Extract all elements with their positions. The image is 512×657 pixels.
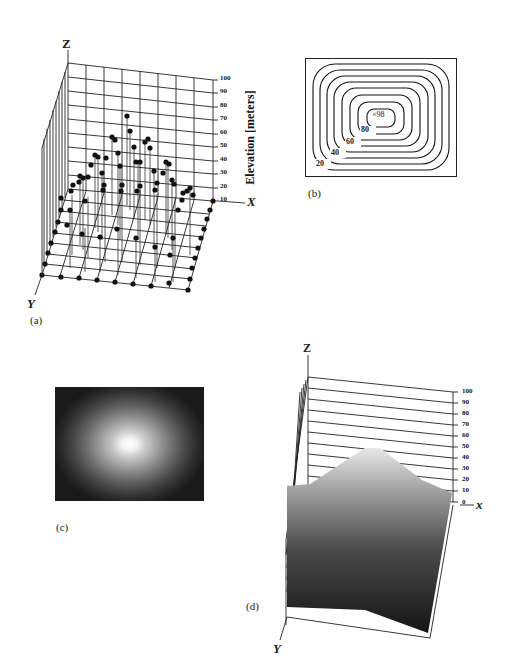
panel-d-z-axis-label: Z — [303, 341, 311, 356]
panel-a-stem-plot: Z X Y 100 90 80 70 60 50 40 30 20 10 Ele… — [0, 0, 260, 330]
tick-label: 80 — [462, 409, 469, 417]
tick-label: 70 — [462, 420, 469, 428]
tick-label: 60 — [462, 431, 469, 439]
tick-label: 30 — [462, 464, 469, 472]
panel-a-elevation-label: Elevation [meters] — [243, 78, 258, 198]
surface-shape — [287, 448, 452, 633]
tick-label: 90 — [220, 87, 227, 95]
tick-label: 40 — [462, 453, 469, 461]
panel-a-y-axis-label: Y — [27, 296, 35, 312]
panel-a-label: (a) — [30, 314, 42, 326]
tick-label: 70 — [220, 114, 227, 122]
tick-label: 30 — [220, 168, 227, 176]
panel-d-surface-plot: Z x Y 100 90 80 70 60 50 40 30 20 10 0 — [270, 340, 512, 650]
stem-plot-graphic — [0, 0, 260, 330]
tick-label: 100 — [462, 387, 473, 395]
stems — [70, 116, 190, 282]
panel-c-grayscale-image — [55, 387, 204, 501]
tick-label: 100 — [220, 74, 231, 82]
panel-b-contour-map: ×98 80 60 40 20 — [305, 58, 457, 178]
panel-c-label: (c) — [56, 521, 68, 533]
panel-a-z-axis-label: Z — [62, 36, 71, 52]
tick-label: 0 — [462, 498, 466, 506]
panel-d-y-axis-label: Y — [273, 641, 281, 657]
tick-label: 50 — [462, 442, 469, 450]
contour-label-60: 60 — [346, 137, 354, 146]
contour-label-80: 80 — [361, 125, 369, 134]
contour-label-20: 20 — [316, 159, 324, 168]
tick-label: 80 — [220, 101, 227, 109]
tick-label: 10 — [220, 195, 227, 203]
tick-label: 10 — [462, 486, 469, 494]
panel-d-x-axis-label: x — [476, 497, 483, 513]
panel-d-label: (d) — [246, 600, 259, 612]
tick-label: 90 — [462, 398, 469, 406]
tick-label: 20 — [462, 475, 469, 483]
tick-label: 40 — [220, 155, 227, 163]
tick-label: 60 — [220, 128, 227, 136]
surface-graphic — [270, 340, 512, 650]
contour-peak-label: ×98 — [372, 110, 385, 119]
panel-b-label: (b) — [308, 187, 321, 199]
tick-label: 50 — [220, 141, 227, 149]
tick-label: 20 — [220, 182, 227, 190]
contour-label-40: 40 — [331, 148, 339, 157]
